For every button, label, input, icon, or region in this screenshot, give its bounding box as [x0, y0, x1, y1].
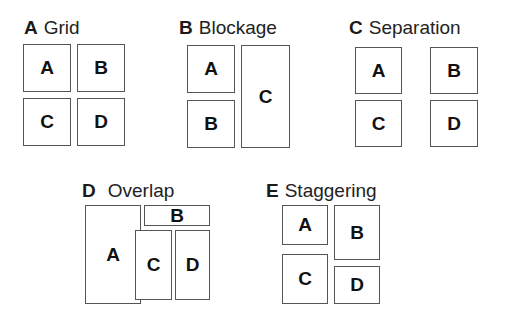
box-label: B: [170, 205, 184, 227]
panel-name: Staggering: [285, 180, 377, 201]
box-label: C: [259, 86, 273, 108]
blockage-box-a: A: [187, 45, 235, 93]
overlap-box-d: D: [175, 230, 210, 300]
grid-box-c: C: [23, 98, 71, 146]
box-label: A: [372, 60, 386, 82]
grid-box-d: D: [77, 98, 125, 146]
panel-name: Separation: [369, 17, 461, 38]
blockage-box-c: C: [241, 45, 290, 148]
panel-letter: C: [349, 17, 363, 38]
box-label: C: [147, 254, 161, 276]
box-label: A: [40, 57, 54, 79]
separation-box-b: B: [430, 47, 478, 94]
box-label: B: [204, 113, 218, 135]
panel-letter: A: [24, 17, 38, 38]
separation-box-d: D: [430, 100, 478, 147]
box-label: B: [94, 57, 108, 79]
staggering-box-c: C: [282, 254, 328, 304]
box-label: D: [186, 254, 200, 276]
box-label: C: [372, 113, 386, 135]
panel-b-title: BBlockage: [179, 18, 277, 37]
separation-box-c: C: [355, 100, 402, 147]
blockage-box-b: B: [187, 100, 235, 148]
panel-d-title: DOverlap: [82, 181, 174, 200]
box-label: C: [298, 268, 312, 290]
panel-letter: D: [82, 180, 96, 201]
panel-a-title: AGrid: [24, 18, 80, 37]
grid-box-b: B: [77, 44, 125, 92]
overlap-box-c: C: [135, 230, 172, 300]
panel-letter: E: [266, 180, 279, 201]
staggering-box-b: B: [334, 205, 380, 260]
overlap-box-a: A: [85, 205, 141, 304]
overlap-box-b: B: [144, 205, 210, 226]
staggering-box-a: A: [282, 205, 328, 245]
panel-name: Grid: [44, 17, 80, 38]
grid-box-a: A: [23, 44, 71, 92]
box-label: D: [94, 111, 108, 133]
box-label: A: [106, 244, 120, 266]
panel-name: Overlap: [108, 180, 175, 201]
staggering-box-d: D: [334, 266, 380, 304]
box-label: B: [447, 60, 461, 82]
box-label: D: [447, 113, 461, 135]
box-label: B: [350, 222, 364, 244]
box-label: A: [298, 214, 312, 236]
panel-c-title: CSeparation: [349, 18, 461, 37]
separation-box-a: A: [355, 47, 402, 94]
box-label: C: [40, 111, 54, 133]
panel-name: Blockage: [199, 17, 277, 38]
box-label: A: [204, 58, 218, 80]
panel-letter: B: [179, 17, 193, 38]
box-label: D: [350, 274, 364, 296]
panel-e-title: EStaggering: [266, 181, 377, 200]
